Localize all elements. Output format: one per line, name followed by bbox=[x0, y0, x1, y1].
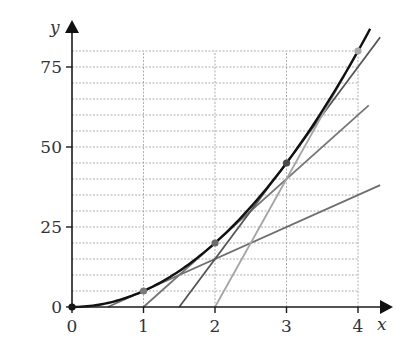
grid bbox=[72, 51, 358, 307]
tangent-lines bbox=[108, 37, 380, 307]
y-axis-label: y bbox=[49, 17, 60, 37]
axes bbox=[65, 20, 393, 314]
chart: 012340255075 x y bbox=[0, 0, 412, 355]
x-axis-label: x bbox=[377, 314, 387, 334]
y-tick-label: 25 bbox=[40, 217, 62, 237]
y-tick-label: 0 bbox=[51, 297, 62, 317]
data-point bbox=[283, 159, 290, 166]
x-tick-label: 2 bbox=[210, 316, 221, 336]
y-axis-arrow-icon bbox=[65, 20, 79, 33]
y-tick-label: 50 bbox=[40, 137, 62, 157]
x-tick-label: 3 bbox=[281, 316, 292, 336]
x-tick-label: 0 bbox=[67, 316, 78, 336]
x-axis-arrow-icon bbox=[380, 300, 393, 314]
data-point bbox=[211, 239, 218, 246]
y-tick-label: 75 bbox=[40, 57, 62, 77]
data-point bbox=[140, 287, 147, 294]
curve-5x-squared bbox=[72, 29, 370, 307]
data-point bbox=[354, 47, 361, 54]
x-tick-label: 1 bbox=[138, 316, 149, 336]
x-tick-label: 4 bbox=[353, 316, 364, 336]
